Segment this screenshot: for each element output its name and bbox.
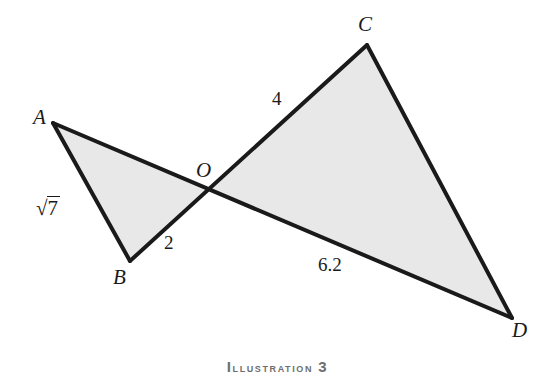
measure-label-oc: 4: [272, 89, 282, 108]
caption-number: 3: [318, 358, 328, 375]
vertex-label-o: O: [196, 160, 211, 181]
triangle-cod-fill: [207, 45, 512, 318]
vertex-label-a: A: [33, 107, 46, 128]
vertex-label-b: B: [113, 267, 126, 288]
measure-label-ab: √7: [36, 196, 60, 219]
radicand-value: 7: [47, 196, 61, 219]
vertex-label-c: C: [358, 14, 372, 35]
triangle-aob-fill: [53, 123, 207, 261]
measure-label-od: 6.2: [318, 255, 342, 274]
vertex-label-d: D: [512, 320, 527, 341]
figure-caption: Illustration 3: [0, 358, 555, 375]
measure-label-bo: 2: [164, 233, 174, 252]
illustration-figure: A B O C D √7 2 4 6.2 Illustration 3: [0, 0, 555, 391]
geometry-canvas: [0, 0, 555, 391]
caption-word: llustration: [233, 360, 313, 375]
